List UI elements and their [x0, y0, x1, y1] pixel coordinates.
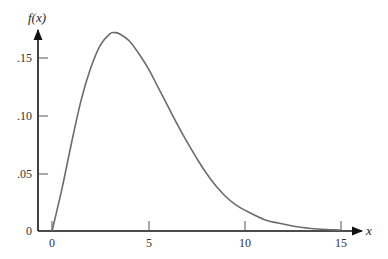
x-tick-label-10: 10 [239, 236, 251, 250]
x-axis-title: x [365, 223, 372, 238]
density-curve [52, 32, 341, 231]
y-ticks [38, 58, 48, 174]
x-tick-label-15: 15 [335, 236, 347, 250]
x-tick-label-5: 5 [146, 236, 152, 250]
y-tick-label-15: .15 [17, 51, 32, 65]
y-tick-label-0: 0 [26, 224, 32, 238]
density-chart: f(x) x .15 .10 .05 0 0 5 10 15 [0, 0, 388, 259]
y-tick-label-10: .10 [17, 109, 32, 123]
x-tick-label-0: 0 [49, 236, 55, 250]
y-axis-title: f(x) [28, 10, 46, 25]
y-tick-label-05: .05 [17, 167, 32, 181]
